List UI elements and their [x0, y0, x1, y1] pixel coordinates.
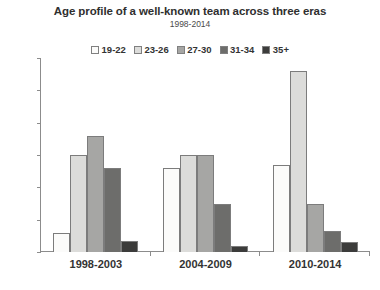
x-axis-label: 1998-2003 — [41, 258, 151, 270]
y-axis-tick — [37, 220, 41, 221]
x-axis-labels: 1998-20032004-20092010-2014 — [41, 258, 370, 270]
legend-swatch-icon — [177, 46, 185, 54]
legend-item[interactable]: 35+ — [262, 44, 289, 55]
title-block: Age profile of a well-known team across … — [0, 4, 380, 30]
legend-item[interactable]: 27-30 — [177, 44, 212, 55]
bar[interactable] — [307, 204, 324, 253]
y-axis-tick — [37, 58, 41, 59]
chart-title: Age profile of a well-known team across … — [0, 4, 380, 18]
y-axis-tick — [37, 123, 41, 124]
y-axis-tick — [37, 187, 41, 188]
x-axis-label: 2004-2009 — [151, 258, 261, 270]
legend-item[interactable]: 23-26 — [134, 44, 169, 55]
bar[interactable] — [163, 168, 180, 252]
x-axis-tick — [369, 252, 370, 256]
bar[interactable] — [121, 241, 138, 252]
x-axis-tick — [259, 252, 260, 256]
bar[interactable] — [70, 155, 87, 252]
bar[interactable] — [231, 246, 248, 252]
bar[interactable] — [324, 231, 341, 252]
bar-chart: Age profile of a well-known team across … — [0, 0, 380, 290]
chart-subtitle: 1998-2014 — [0, 18, 380, 30]
x-axis-label: 2010-2014 — [260, 258, 370, 270]
bar-group — [151, 58, 261, 252]
bar[interactable] — [290, 71, 307, 252]
legend-item-label: 27-30 — [187, 44, 211, 55]
legend-item-label: 35+ — [273, 44, 289, 55]
bar[interactable] — [53, 233, 70, 252]
bar-group — [260, 58, 370, 252]
y-axis-tick — [37, 155, 41, 156]
bar[interactable] — [214, 204, 231, 253]
legend-item[interactable]: 31-34 — [220, 44, 255, 55]
y-axis-tick — [37, 252, 41, 253]
plot-area — [40, 58, 370, 252]
legend-swatch-icon — [134, 46, 142, 54]
bar[interactable] — [273, 165, 290, 252]
bar[interactable] — [180, 155, 197, 252]
y-axis-tick — [37, 90, 41, 91]
legend-item-label: 19-22 — [102, 44, 126, 55]
chart-legend: 19-2223-2627-3031-3435+ — [0, 44, 380, 55]
bar-group — [41, 58, 151, 252]
bar[interactable] — [341, 242, 358, 252]
legend-item[interactable]: 19-22 — [91, 44, 126, 55]
bar[interactable] — [104, 168, 121, 252]
legend-swatch-icon — [262, 46, 270, 54]
bar[interactable] — [87, 136, 104, 252]
legend-swatch-icon — [91, 46, 99, 54]
legend-item-label: 31-34 — [230, 44, 254, 55]
bar[interactable] — [197, 155, 214, 252]
bars-layer — [41, 58, 370, 252]
legend-swatch-icon — [220, 46, 228, 54]
x-axis-tick — [150, 252, 151, 256]
legend-item-label: 23-26 — [144, 44, 168, 55]
